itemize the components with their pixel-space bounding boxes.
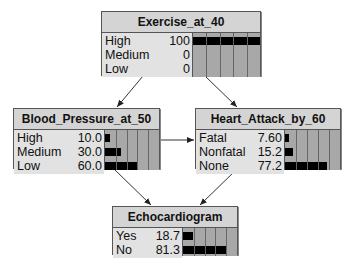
state-row: Low0	[105, 62, 190, 76]
edge-exercise-to-heart-attack	[205, 76, 237, 107]
belief-bar	[285, 148, 293, 156]
belief-bar	[193, 37, 260, 45]
belief-bars	[104, 130, 159, 170]
state-row: None77.2	[199, 159, 282, 173]
node-echocardiogram[interactable]: Echocardiogram Yes18.7 No81.3	[112, 206, 238, 255]
state-row: Low60.0	[17, 159, 102, 173]
state-row: Medium0	[105, 48, 190, 62]
belief-bars	[192, 33, 260, 77]
belief-bar	[105, 162, 137, 170]
state-row: Nonfatal15.2	[199, 145, 282, 159]
node-title: Heart_Attack_by_60	[196, 109, 340, 130]
state-row: Yes18.7	[116, 229, 180, 243]
edge-heart-attack-to-echo	[200, 169, 237, 205]
belief-bar	[105, 148, 121, 156]
state-row: High100	[105, 34, 190, 48]
edge-exercise-to-blood-pressure	[117, 76, 143, 107]
node-title: Echocardiogram	[113, 207, 237, 228]
state-row: Fatal7.60	[199, 131, 282, 145]
belief-bars	[182, 228, 237, 256]
state-row: No81.3	[116, 243, 180, 257]
belief-bar	[285, 134, 289, 142]
node-heart-attack-by-60[interactable]: Heart_Attack_by_60 Fatal7.60 Nonfatal15.…	[195, 108, 341, 169]
edge-blood-pressure-to-echo	[114, 169, 151, 205]
node-title: Blood_Pressure_at_50	[14, 109, 159, 130]
node-exercise-at-40[interactable]: Exercise_at_40 High100 Medium0 Low0	[101, 11, 261, 76]
belief-bar	[183, 232, 193, 240]
node-blood-pressure-at-50[interactable]: Blood_Pressure_at_50 High10.0 Medium30.0…	[13, 108, 160, 169]
belief-bars	[284, 130, 340, 170]
state-row: High10.0	[17, 131, 102, 145]
node-title: Exercise_at_40	[102, 12, 260, 33]
belief-bar	[105, 134, 110, 142]
state-row: Medium30.0	[17, 145, 102, 159]
